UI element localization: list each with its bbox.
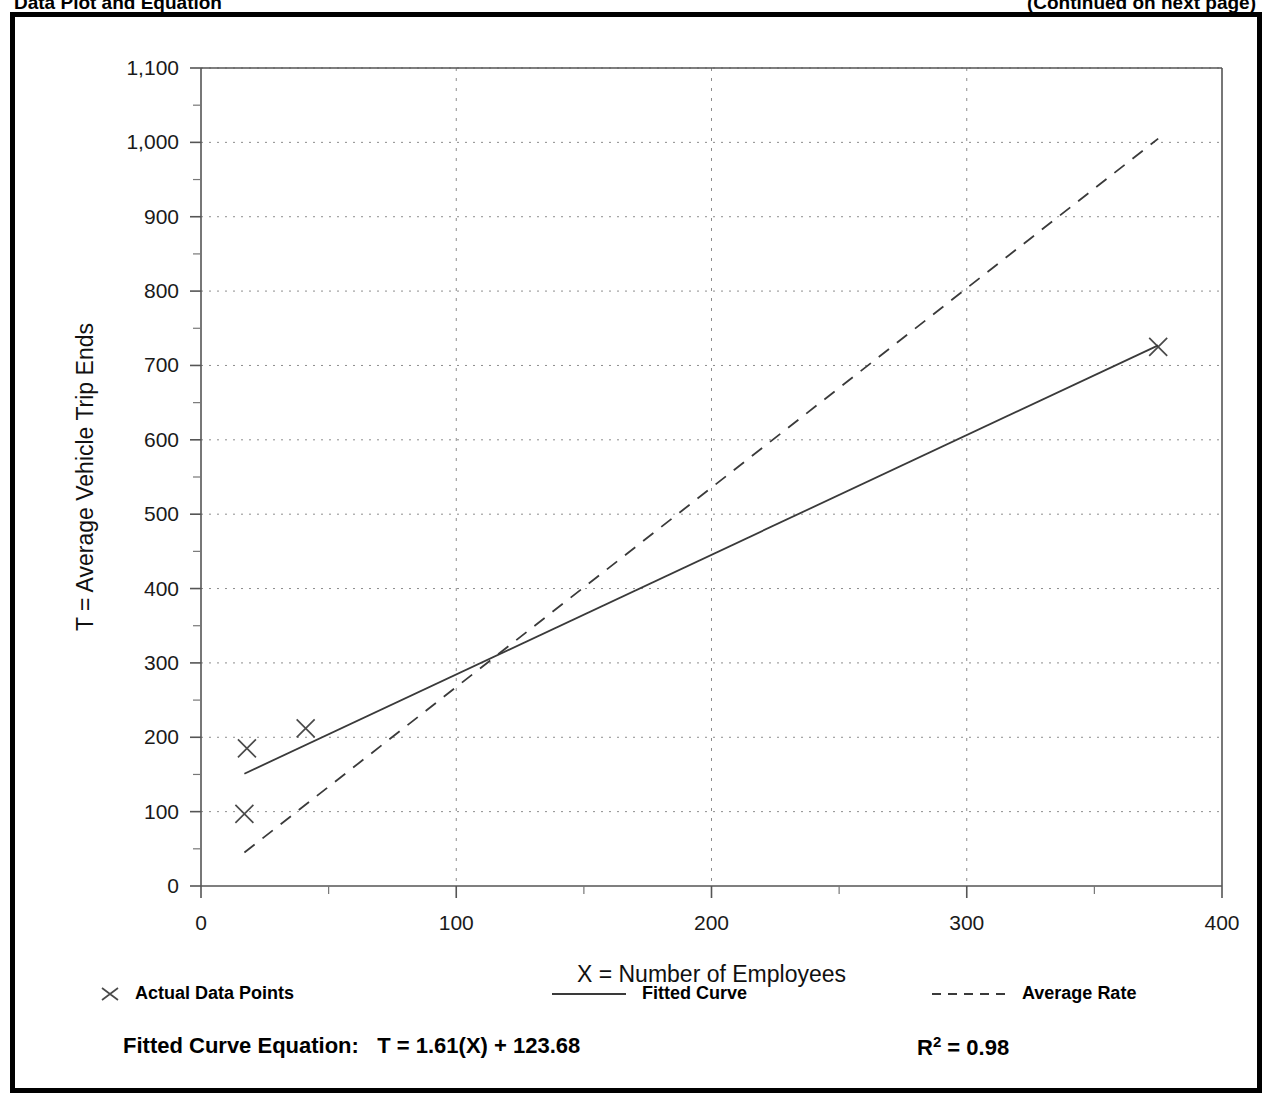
y-tick-label: 800 <box>144 279 179 302</box>
r-squared-exponent: 2 <box>933 1033 941 1050</box>
legend-label-actual-data-points: Actual Data Points <box>135 983 294 1004</box>
series-line-average-rate <box>244 139 1158 853</box>
x-tick-label: 300 <box>949 911 984 934</box>
legend-item-actual-data-points: Actual Data Points <box>99 983 294 1004</box>
data-point-marker <box>297 719 315 737</box>
y-tick-label: 700 <box>144 353 179 376</box>
x-tick-label: 0 <box>195 911 207 934</box>
x-tick-label: 400 <box>1204 911 1239 934</box>
legend-label-fitted-curve: Fitted Curve <box>642 983 747 1004</box>
solid-line-icon <box>550 985 628 1003</box>
scatter-plot: 01002003004005006007008009001,0001,10001… <box>15 17 1257 1088</box>
r-squared-number: = 0.98 <box>947 1035 1009 1060</box>
chart-canvas: 01002003004005006007008009001,0001,10001… <box>15 17 1257 1088</box>
y-tick-label: 600 <box>144 428 179 451</box>
y-tick-label: 300 <box>144 651 179 674</box>
y-tick-label: 400 <box>144 577 179 600</box>
y-tick-label: 1,100 <box>126 56 179 79</box>
y-tick-label: 900 <box>144 205 179 228</box>
fitted-curve-equation: Fitted Curve Equation: T = 1.61(X) + 123… <box>123 1033 580 1059</box>
x-tick-label: 200 <box>694 911 729 934</box>
y-tick-label: 200 <box>144 725 179 748</box>
dashed-line-icon <box>930 985 1008 1003</box>
y-tick-label: 100 <box>144 800 179 823</box>
y-tick-label: 500 <box>144 502 179 525</box>
legend-item-fitted-curve: Fitted Curve <box>550 983 747 1004</box>
data-point-marker <box>235 805 253 823</box>
legend-item-average-rate: Average Rate <box>930 983 1136 1004</box>
figure-frame: 01002003004005006007008009001,0001,10001… <box>10 12 1262 1093</box>
y-tick-label: 0 <box>167 874 179 897</box>
x-marker-icon <box>99 985 121 1003</box>
r-squared-value: R2 = 0.98 <box>917 1033 1009 1061</box>
chart-legend: Actual Data Points Fitted Curve Average … <box>15 983 1257 1025</box>
x-tick-label: 100 <box>439 911 474 934</box>
y-axis-title: T = Average Vehicle Trip Ends <box>72 323 98 631</box>
series-line-fitted-curve <box>244 345 1158 773</box>
data-point-marker <box>238 739 256 757</box>
equation-value: T = 1.61(X) + 123.68 <box>377 1033 580 1058</box>
data-point-marker <box>1149 338 1167 356</box>
y-tick-label: 1,000 <box>126 130 179 153</box>
r-squared-symbol: R <box>917 1035 933 1060</box>
legend-label-average-rate: Average Rate <box>1022 983 1136 1004</box>
equation-label: Fitted Curve Equation: <box>123 1033 359 1058</box>
equation-row: Fitted Curve Equation: T = 1.61(X) + 123… <box>15 1033 1257 1077</box>
